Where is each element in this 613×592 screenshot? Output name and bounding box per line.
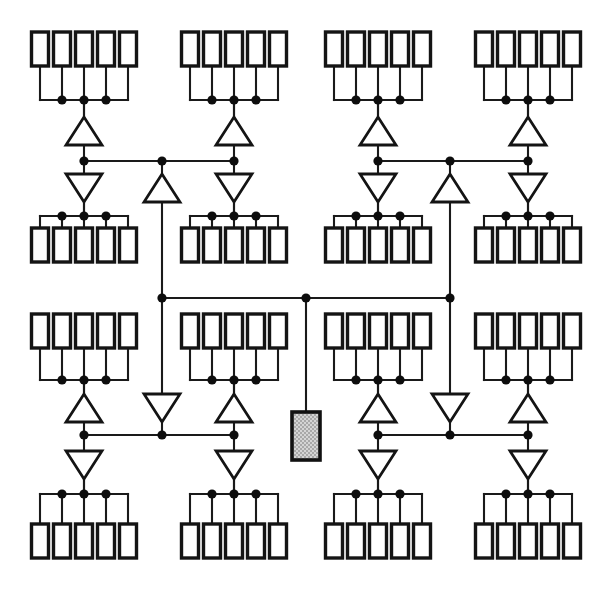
cluster-mid-low-2-cell [182,314,199,348]
lower-bus-junction [523,430,532,439]
cluster-top-2-junction [207,95,216,104]
cluster-bottom-1-junction [101,489,110,498]
cluster-bottom-1-cell [76,524,93,558]
cluster-bottom-4-cell [564,524,581,558]
schematic-canvas [0,0,613,592]
cluster-mid-up-1-cell [120,228,137,262]
lower-bus-junction [229,430,238,439]
cluster-top-4-cell [542,32,559,66]
amp-upper-far-down [510,174,546,202]
cluster-bottom-4-cell [476,524,493,558]
cluster-mid-low-3-cell [326,314,343,348]
cluster-mid-up-2-cell [182,228,199,262]
cluster-mid-low-4-cell [542,314,559,348]
cluster-mid-up-2-cell [270,228,287,262]
cluster-top-1-cell [54,32,71,66]
cluster-mid-low-2-cell [270,314,287,348]
cluster-top-1-cell [76,32,93,66]
center-upper-junction [157,156,166,165]
cluster-top-4-junction [523,95,532,104]
upper-bus-junction [79,156,88,165]
cluster-mid-up-2-junction [251,211,260,220]
cluster-top-2-cell [270,32,287,66]
cluster-top-4-cell [498,32,515,66]
cluster-mid-up-3-cell [370,228,387,262]
amp-center-left-up [144,174,180,202]
amp-top-far-up [510,117,546,145]
cluster-mid-low-1-cell [98,314,115,348]
cluster-mid-low-2-junction [251,375,260,384]
cluster-mid-up-3-junction [395,211,404,220]
cluster-bottom-3-junction [373,489,382,498]
cluster-bottom-2-cell [248,524,265,558]
cluster-bottom-1-cell [98,524,115,558]
cluster-top-3-cell [326,32,343,66]
central-bus-junction [445,293,454,302]
cluster-mid-up-2-cell [204,228,221,262]
cluster-bottom-2-junction [207,489,216,498]
clock-source-layer [292,412,320,460]
cluster-bottom-2-cell [204,524,221,558]
cluster-mid-up-4-cell [476,228,493,262]
cluster-mid-low-2-junction [229,375,238,384]
cluster-bottom-1-cell [120,524,137,558]
cluster-mid-low-3-junction [395,375,404,384]
cluster-bottom-1-junction [57,489,66,498]
cluster-mid-up-1-cell [54,228,71,262]
cluster-mid-low-3-junction [373,375,382,384]
cluster-mid-up-4-cell [564,228,581,262]
cluster-mid-up-4-cell [542,228,559,262]
cluster-top-3-cell [348,32,365,66]
cluster-bottom-3-cell [326,524,343,558]
amp-center-right-down [432,394,468,422]
cluster-mid-up-4-junction [501,211,510,220]
cluster-bottom-3-junction [351,489,360,498]
cluster-mid-up-3-junction [373,211,382,220]
center-upper-junction [445,156,454,165]
cluster-bottom-4-junction [523,489,532,498]
amp-center-right-up [432,174,468,202]
cluster-top-4-cell [476,32,493,66]
h-tree-clock-distribution-diagram [0,0,613,592]
amp-bottom-left-down [66,451,102,479]
amp-bottom-right-down [360,451,396,479]
cluster-top-4-junction [545,95,554,104]
cluster-bottom-3-cell [392,524,409,558]
cluster-mid-up-2-junction [229,211,238,220]
cluster-mid-up-4-cell [520,228,537,262]
cluster-mid-up-1-junction [101,211,110,220]
upper-bus-junction [229,156,238,165]
cluster-top-1-cell [120,32,137,66]
cluster-top-1-cell [32,32,49,66]
cluster-mid-up-3-cell [348,228,365,262]
cluster-mid-low-4-junction [545,375,554,384]
cluster-bottom-2-cell [182,524,199,558]
cluster-mid-low-1-cell [76,314,93,348]
cluster-mid-up-4-cell [498,228,515,262]
cluster-mid-low-4-junction [501,375,510,384]
cluster-mid-up-3-cell [326,228,343,262]
clock-source-block [292,412,320,460]
cluster-top-4-cell [564,32,581,66]
center-lower-junction [445,430,454,439]
cluster-bottom-1-junction [79,489,88,498]
cluster-mid-low-4-junction [523,375,532,384]
cluster-bottom-3-cell [370,524,387,558]
cluster-mid-low-3-cell [348,314,365,348]
lower-bus-junction [79,430,88,439]
amp-top-left-up [66,117,102,145]
cluster-top-1-junction [101,95,110,104]
cluster-top-1-cell [98,32,115,66]
upper-bus-junction [373,156,382,165]
cluster-bottom-3-junction [395,489,404,498]
cluster-mid-low-3-junction [351,375,360,384]
cluster-top-3-cell [392,32,409,66]
cluster-mid-low-1-cell [54,314,71,348]
central-bus-junction [157,293,166,302]
cluster-mid-low-2-cell [226,314,243,348]
cluster-bottom-4-cell [520,524,537,558]
amp-upper-mid-down [216,174,252,202]
cluster-top-2-cell [248,32,265,66]
cluster-mid-low-3-cell [392,314,409,348]
cluster-mid-low-2-cell [248,314,265,348]
